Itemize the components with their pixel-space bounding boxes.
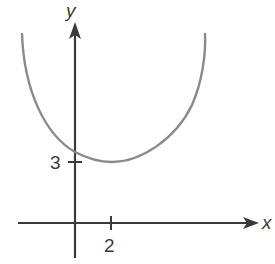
curve <box>22 34 205 162</box>
y-tick-label: 3 <box>50 152 61 173</box>
x-tick-label: 2 <box>104 235 115 256</box>
graph: x y 2 3 <box>0 0 275 264</box>
y-axis-label: y <box>64 0 77 21</box>
x-axis-label: x <box>261 212 273 233</box>
